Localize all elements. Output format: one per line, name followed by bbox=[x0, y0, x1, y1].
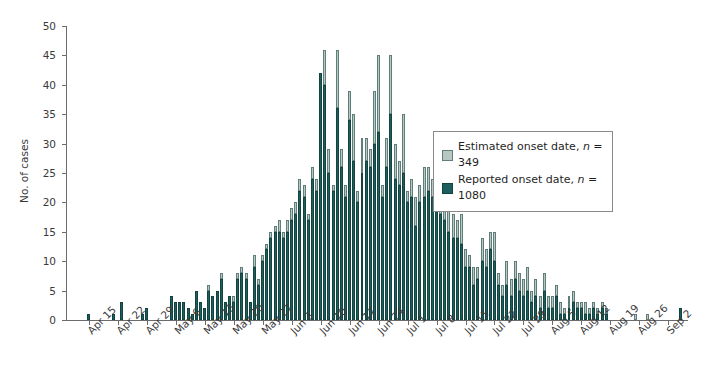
bar-segment-reported bbox=[315, 191, 318, 320]
bar bbox=[315, 179, 318, 320]
bar-segment-estimated bbox=[406, 191, 409, 203]
bar-segment-reported bbox=[410, 197, 413, 320]
bar bbox=[307, 214, 310, 320]
bar-segment-reported bbox=[435, 202, 438, 320]
bar bbox=[377, 55, 380, 320]
bar bbox=[348, 91, 351, 320]
y-tick-mark bbox=[62, 202, 66, 203]
bar-segment-estimated bbox=[381, 185, 384, 197]
y-tick-label: 50 bbox=[30, 20, 56, 32]
bar bbox=[468, 255, 471, 320]
bar bbox=[332, 185, 335, 320]
bar bbox=[369, 149, 372, 320]
bar bbox=[439, 197, 442, 320]
bar bbox=[340, 149, 343, 320]
bar-segment-estimated bbox=[522, 279, 525, 297]
bar-segment-estimated bbox=[410, 179, 413, 197]
bar bbox=[555, 285, 558, 320]
y-tick-mark bbox=[62, 85, 66, 86]
bar-segment-estimated bbox=[323, 50, 326, 85]
bar-segment-estimated bbox=[290, 208, 293, 220]
bar-segment-reported bbox=[207, 291, 210, 320]
bar bbox=[303, 185, 306, 320]
y-tick-label: 15 bbox=[30, 226, 56, 238]
bar-segment-reported bbox=[460, 244, 463, 320]
legend-label-reported-symbol: n bbox=[578, 173, 585, 186]
legend-swatch-reported-icon bbox=[442, 183, 453, 194]
bar-segment-estimated bbox=[518, 273, 521, 291]
bar-segment-estimated bbox=[414, 197, 417, 226]
bar-segment-reported bbox=[522, 296, 525, 320]
bar bbox=[290, 208, 293, 320]
bar bbox=[398, 161, 401, 320]
bar-segment-estimated bbox=[394, 144, 397, 179]
bar bbox=[460, 214, 463, 320]
y-tick-mark bbox=[62, 144, 66, 145]
bar bbox=[356, 191, 359, 320]
bar-segment-estimated bbox=[530, 291, 533, 303]
legend-label-estimated-symbol: n bbox=[583, 140, 590, 153]
bar-segment-estimated bbox=[348, 91, 351, 120]
bar-segment-estimated bbox=[361, 138, 364, 173]
bar bbox=[497, 273, 500, 320]
bar-segment-estimated bbox=[501, 285, 504, 297]
bar bbox=[576, 302, 579, 320]
bar bbox=[236, 273, 239, 320]
bar bbox=[472, 267, 475, 320]
bar-segment-estimated bbox=[505, 261, 508, 285]
bar-segment-reported bbox=[361, 173, 364, 320]
bar-segment-estimated bbox=[472, 267, 475, 285]
bar bbox=[294, 202, 297, 320]
legend-label-reported: Reported onset date, n = 1080 bbox=[458, 172, 603, 204]
bar bbox=[456, 220, 459, 320]
bar bbox=[385, 138, 388, 320]
bar bbox=[298, 179, 301, 320]
bar-segment-estimated bbox=[356, 191, 359, 203]
bar-segment-reported bbox=[373, 144, 376, 320]
y-axis-line bbox=[66, 26, 67, 321]
y-tick-mark bbox=[62, 291, 66, 292]
bar bbox=[207, 285, 210, 320]
y-tick-label: 45 bbox=[30, 49, 56, 61]
bar-segment-reported bbox=[356, 202, 359, 320]
bar-segment-estimated bbox=[547, 296, 550, 308]
bar-segment-reported bbox=[340, 167, 343, 320]
bar bbox=[323, 50, 326, 320]
bar-segment-estimated bbox=[427, 167, 430, 191]
bar-segment-estimated bbox=[551, 296, 554, 308]
bar bbox=[373, 91, 376, 320]
bar bbox=[240, 267, 243, 320]
bar-segment-estimated bbox=[344, 185, 347, 197]
legend-label-reported-text: Reported onset date, bbox=[458, 173, 578, 186]
y-tick-mark bbox=[62, 320, 66, 321]
bar-segment-reported bbox=[332, 191, 335, 320]
bar-segment-reported bbox=[443, 220, 446, 320]
bar bbox=[352, 114, 355, 320]
bar-segment-reported bbox=[418, 202, 421, 320]
bar-segment-reported bbox=[423, 197, 426, 320]
bar-segment-reported bbox=[389, 114, 392, 320]
bar bbox=[336, 50, 339, 320]
y-axis-title: No. of cases bbox=[18, 116, 30, 226]
bar-segment-reported bbox=[381, 197, 384, 320]
legend-label-estimated-text: Estimated onset date, bbox=[458, 140, 583, 153]
bar bbox=[452, 214, 455, 320]
bar-segment-estimated bbox=[303, 185, 306, 197]
bar-segment-estimated bbox=[389, 55, 392, 114]
epidemic-curve-chart: No. of cases Estimated onset date, n = 3… bbox=[0, 0, 702, 371]
bar-segment-estimated bbox=[286, 220, 289, 232]
y-tick-mark bbox=[62, 26, 66, 27]
bar bbox=[389, 55, 392, 320]
y-tick-label: 10 bbox=[30, 255, 56, 267]
bar-segment-estimated bbox=[572, 291, 575, 303]
y-tick-mark bbox=[62, 55, 66, 56]
bar-segment-estimated bbox=[464, 249, 467, 267]
bar bbox=[327, 149, 330, 320]
bar-segment-reported bbox=[344, 197, 347, 320]
legend-label-estimated: Estimated onset date, n = 349 bbox=[458, 139, 603, 171]
bar-segment-reported bbox=[311, 179, 314, 320]
bar bbox=[269, 232, 272, 320]
bar-segment-estimated bbox=[514, 261, 517, 279]
bar-segment-estimated bbox=[584, 302, 587, 314]
chart-legend: Estimated onset date, n = 349 Reported o… bbox=[433, 131, 613, 212]
